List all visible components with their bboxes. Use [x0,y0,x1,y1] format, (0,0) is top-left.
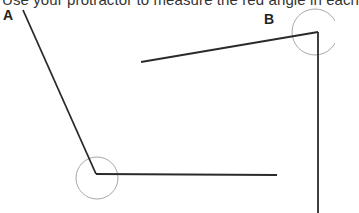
angle-a [23,10,277,199]
angle-b [141,9,335,213]
angle-a-arm-1 [23,10,96,174]
angle-b-arm-1 [141,32,318,62]
angle-a-arm-2 [96,174,277,175]
angle-a-arc [76,157,118,199]
